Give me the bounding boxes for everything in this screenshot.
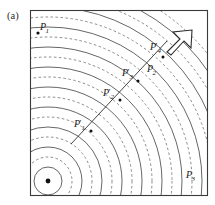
point-label-p3: P3 xyxy=(186,170,196,180)
prime-mark-3: ′ xyxy=(127,67,129,77)
wave-source-center xyxy=(46,179,51,184)
point-label-p-prime-3: P′3 xyxy=(122,68,134,78)
point-label-p-prime-4: P′4 xyxy=(150,42,162,52)
point-label-p-prime-4-sub: 4 xyxy=(158,47,162,55)
point-label-p1: P1 xyxy=(40,22,50,32)
figure-panel-a: (a) P1 P2 P3 P′1 P′2 P′3 P′4 xyxy=(0,0,215,205)
point-label-p-prime-2-sub: 2 xyxy=(111,93,115,101)
prime-mark-1: ′ xyxy=(79,118,81,128)
point-label-p-prime-1: P′1 xyxy=(74,119,86,129)
point-label-p2: P2 xyxy=(147,64,157,74)
prime-mark-2: ′ xyxy=(108,87,110,97)
point-label-p-prime-2: P′2 xyxy=(103,88,115,98)
point-label-p-prime-1-sub: 1 xyxy=(82,124,86,132)
wavefront-diagram xyxy=(0,0,215,205)
prime-mark-4: ′ xyxy=(155,41,157,51)
panel-label: (a) xyxy=(7,10,19,21)
point-label-p2-sub: 2 xyxy=(153,69,157,77)
point-label-p3-sub: 3 xyxy=(192,175,196,183)
point-label-p-prime-3-sub: 3 xyxy=(130,73,134,81)
point-label-p1-sub: 1 xyxy=(46,27,50,35)
